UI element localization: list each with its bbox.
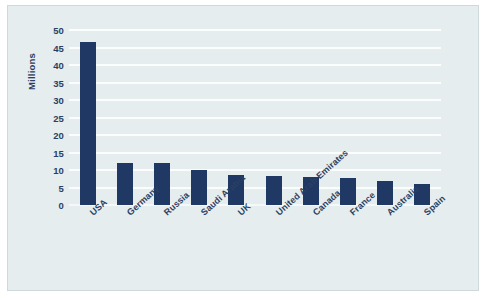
bar: [154, 163, 170, 205]
plot-area: [69, 30, 441, 205]
x-label-slot: Saudi Arabia: [181, 207, 218, 287]
x-label-slot: Spain: [404, 207, 441, 287]
y-axis-tick-label: 35: [53, 77, 64, 88]
bar-slot: [69, 30, 106, 205]
y-axis-tick-label: 25: [53, 112, 64, 123]
bar-slot: [255, 30, 292, 205]
bar: [80, 42, 96, 205]
y-axis-tick-label: 30: [53, 95, 64, 106]
bar: [340, 178, 356, 205]
bar-slot: [106, 30, 143, 205]
bar-chart-card: Millions 50454035302520151050 USAGermany…: [7, 5, 479, 291]
bar: [117, 163, 133, 205]
y-axis-tick-label: 10: [53, 165, 64, 176]
x-label-slot: Russia: [143, 207, 180, 287]
x-label-slot: Australia: [367, 207, 404, 287]
x-label-slot: Germany: [106, 207, 143, 287]
y-axis-tick-label: 0: [59, 200, 64, 211]
bar-slot: [143, 30, 180, 205]
bar: [191, 170, 207, 205]
y-axis-title: Millions: [26, 53, 37, 90]
y-axis-tick-label: 20: [53, 130, 64, 141]
y-axis-tick-label: 5: [59, 182, 64, 193]
y-axis-tick-label: 45: [53, 42, 64, 53]
x-label-slot: United Arab Emirates: [255, 207, 292, 287]
x-label-slot: France: [329, 207, 366, 287]
x-label-slot: USA: [69, 207, 106, 287]
y-axis-tick-label: 15: [53, 147, 64, 158]
y-axis-tick-label: 40: [53, 60, 64, 71]
bar: [266, 176, 282, 205]
bar-slot: [329, 30, 366, 205]
bar-slot: [367, 30, 404, 205]
bar-slot: [181, 30, 218, 205]
x-axis-tick-labels: USAGermanyRussiaSaudi ArabiaUKUnited Ara…: [69, 207, 441, 287]
x-label-slot: UK: [218, 207, 255, 287]
y-axis-tick-labels: 50454035302520151050: [38, 30, 64, 205]
x-label-slot: Canada: [292, 207, 329, 287]
bar-slot: [404, 30, 441, 205]
y-axis-tick-label: 50: [53, 25, 64, 36]
bar: [377, 181, 393, 205]
